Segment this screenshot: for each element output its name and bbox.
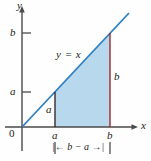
x-tick-label-b: b xyxy=(107,130,113,141)
width-dimension-label: |← b − a →| xyxy=(52,142,104,152)
right-height-label-b: b xyxy=(114,71,120,82)
graph-canvas xyxy=(0,0,151,161)
origin-label: 0 xyxy=(9,128,15,139)
line-equation-label: y = x xyxy=(56,49,81,60)
y-tick-label-b: b xyxy=(10,27,16,38)
inner-height-label-a: a xyxy=(46,104,52,115)
y-tick-label-a: a xyxy=(10,86,16,97)
x-axis-arrow-icon xyxy=(132,124,139,130)
x-tick-label-a: a xyxy=(52,130,58,141)
figure-container: y x 0 b a a b a b y = x |← b − a →| xyxy=(0,0,151,161)
y-axis-label: y xyxy=(17,0,22,11)
x-axis-label: x xyxy=(141,120,146,131)
